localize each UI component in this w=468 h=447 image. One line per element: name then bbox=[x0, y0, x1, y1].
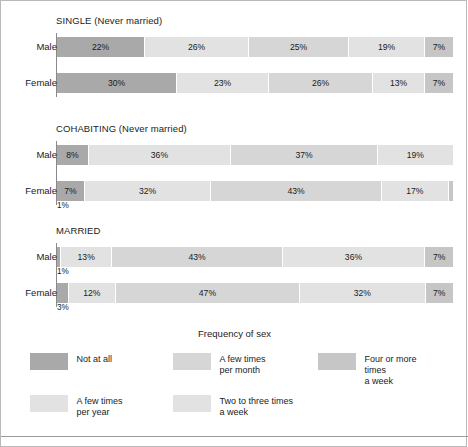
row-label: Male bbox=[0, 37, 57, 57]
legend-swatch bbox=[30, 395, 68, 412]
stacked-bar: 13%43%36%7% bbox=[57, 247, 453, 267]
bar-segment: 17% bbox=[382, 181, 449, 201]
bar-row: Female12%47%32%7% bbox=[1, 283, 468, 303]
bar-segment-label: 25% bbox=[290, 42, 307, 52]
bar-segment: 13% bbox=[61, 247, 112, 267]
bar-segment-label: 17% bbox=[406, 186, 423, 196]
bar-segment-label: 13% bbox=[390, 78, 407, 88]
legend-label: A few times per year bbox=[77, 395, 123, 418]
panel-title: COHABITING (Never married) bbox=[56, 123, 187, 134]
bar-segment-label: 30% bbox=[108, 78, 125, 88]
bar-segment: 7% bbox=[425, 73, 453, 93]
bar-segment: 26% bbox=[145, 37, 249, 57]
bar-segment-label: 22% bbox=[92, 42, 109, 52]
panel-2: COHABITING (Never married)Male8%36%37%19… bbox=[1, 123, 468, 223]
legend-swatch bbox=[318, 353, 356, 370]
bar-segment: 7% bbox=[425, 247, 453, 267]
legend-item[interactable]: Not at all bbox=[30, 353, 113, 370]
bar-segment-label: 12% bbox=[83, 288, 100, 298]
bar-segment-label: 23% bbox=[214, 78, 231, 88]
bar-segment-label: 19% bbox=[407, 150, 424, 160]
legend-item[interactable]: A few times per month bbox=[173, 353, 266, 376]
legend-swatch bbox=[30, 353, 68, 370]
legend-swatch bbox=[173, 353, 211, 370]
bar-segment: 7% bbox=[57, 181, 85, 201]
row-label: Female bbox=[0, 73, 57, 93]
bar-segment bbox=[57, 283, 69, 303]
panel-title: MARRIED bbox=[56, 225, 101, 236]
bar-segment: 23% bbox=[177, 73, 269, 93]
bar-segment-label: 19% bbox=[378, 42, 395, 52]
segment-footnote: 3% bbox=[57, 303, 69, 312]
panel-1: SINGLE (Never married)Male22%26%25%19%7%… bbox=[1, 15, 468, 115]
bar-segment-label: 7% bbox=[433, 42, 445, 52]
panel-title: SINGLE (Never married) bbox=[56, 15, 162, 26]
bar-segment: 36% bbox=[283, 247, 426, 267]
chart-legend: Frequency of sex Not at allA few times p… bbox=[1, 328, 468, 429]
bar-segment: 12% bbox=[69, 283, 116, 303]
segment-footnote: 1% bbox=[57, 201, 69, 210]
bar-row: Female30%23%26%13%7% bbox=[1, 73, 468, 93]
stacked-bar: 12%47%32%7% bbox=[57, 283, 453, 303]
bar-segment: 22% bbox=[57, 37, 145, 57]
segment-footnote: 1% bbox=[57, 267, 69, 276]
bar-segment: 13% bbox=[373, 73, 425, 93]
bar-row: Male22%26%25%19%7% bbox=[1, 37, 468, 57]
bar-segment-label: 32% bbox=[354, 288, 371, 298]
bar-segment: 43% bbox=[112, 247, 282, 267]
bar-segment: 7% bbox=[425, 37, 453, 57]
bar-segment: 25% bbox=[249, 37, 349, 57]
stacked-bar: 8%36%37%19% bbox=[57, 145, 453, 165]
bar-segment: 19% bbox=[349, 37, 425, 57]
row-label: Male bbox=[0, 145, 57, 165]
bar-segment: 30% bbox=[57, 73, 177, 93]
bar-segment-label: 13% bbox=[78, 252, 95, 262]
legend-item[interactable]: Four or more times a week bbox=[318, 353, 440, 387]
bar-segment-label: 26% bbox=[312, 78, 329, 88]
bar-segment-label: 36% bbox=[345, 252, 362, 262]
bar-row: Male13%43%36%7% bbox=[1, 247, 468, 267]
bar-segment-label: 47% bbox=[199, 288, 216, 298]
bar-segment-label: 7% bbox=[433, 288, 445, 298]
legend-title: Frequency of sex bbox=[1, 328, 468, 339]
bar-segment-label: 7% bbox=[64, 186, 76, 196]
legend-swatch bbox=[173, 395, 211, 412]
bar-segment: 7% bbox=[426, 283, 453, 303]
bar-segment-label: 8% bbox=[66, 150, 78, 160]
bar-segment-label: 7% bbox=[433, 78, 445, 88]
row-label: Male bbox=[0, 247, 57, 267]
legend-item[interactable]: A few times per year bbox=[30, 395, 123, 418]
stacked-bar: 30%23%26%13%7% bbox=[57, 73, 453, 93]
bar-segment: 32% bbox=[300, 283, 425, 303]
bar-segment: 43% bbox=[211, 181, 381, 201]
row-label: Female bbox=[0, 181, 57, 201]
legend-item[interactable]: Two to three times a week bbox=[173, 395, 294, 418]
row-label: Female bbox=[0, 283, 57, 303]
legend-label: Not at all bbox=[77, 353, 113, 365]
stacked-bar: 22%26%25%19%7% bbox=[57, 37, 453, 57]
legend-label: Two to three times a week bbox=[220, 395, 294, 418]
bar-segment: 32% bbox=[85, 181, 212, 201]
panel-3: MARRIEDMale13%43%36%7%1%Female12%47%32%7… bbox=[1, 225, 468, 325]
bar-segment: 26% bbox=[269, 73, 373, 93]
bar-segment: 8% bbox=[57, 145, 89, 165]
bar-segment-label: 37% bbox=[295, 150, 312, 160]
legend-items: Not at allA few times per monthFour or m… bbox=[30, 353, 440, 429]
bar-segment-label: 36% bbox=[151, 150, 168, 160]
bar-segment: 19% bbox=[378, 145, 453, 165]
legend-label: Four or more times a week bbox=[365, 353, 440, 387]
bottom-rule bbox=[1, 436, 468, 437]
bar-row: Female7%32%43%17% bbox=[1, 181, 468, 201]
bar-segment-label: 43% bbox=[188, 252, 205, 262]
bar-segment-label: 7% bbox=[433, 252, 445, 262]
bar-segment: 36% bbox=[89, 145, 232, 165]
bar-segment: 37% bbox=[231, 145, 378, 165]
bar-segment: 47% bbox=[116, 283, 300, 303]
bar-segment-label: 43% bbox=[287, 186, 304, 196]
bar-segment-label: 26% bbox=[188, 42, 205, 52]
bar-segment bbox=[449, 181, 453, 201]
bar-segment-label: 32% bbox=[139, 186, 156, 196]
bar-row: Male8%36%37%19% bbox=[1, 145, 468, 165]
stacked-bar: 7%32%43%17% bbox=[57, 181, 453, 201]
